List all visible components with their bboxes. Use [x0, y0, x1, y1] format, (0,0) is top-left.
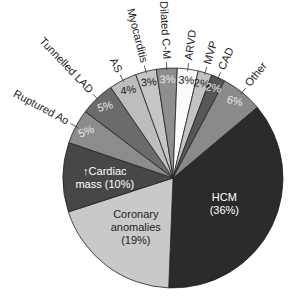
slice-label-cardiac-mass: ↑Cardiacmass (10%) — [75, 165, 134, 190]
slice-label-hcm: HCM(36%) — [210, 191, 239, 216]
pie-chart: HCM(36%)Coronaryanomalies(19%)↑Cardiacma… — [0, 0, 288, 301]
slice-percent-myocarditis: 3% — [140, 75, 157, 88]
category-label-as: AS — [108, 56, 125, 75]
category-label-arvd: ARVD — [182, 29, 198, 61]
category-label-other: Other — [242, 59, 269, 88]
slice-percent-arvd: 3% — [178, 73, 195, 86]
category-label-tunnelled-lad: Tunnelled LAD — [37, 35, 96, 96]
category-label-myocarditis: Myocarditis — [125, 7, 150, 64]
category-label-cad: CAD — [215, 45, 236, 71]
category-label-dilated-c-m: Dilated C-M — [158, 1, 173, 60]
leader-line — [93, 94, 99, 100]
slice-percent-dilated-c-m: 3% — [159, 73, 175, 85]
slice-percent-cad: 2% — [205, 80, 223, 94]
category-label-mvp: MVP — [201, 39, 219, 65]
category-label-ruptured-ao: Ruptured Ao — [12, 87, 72, 126]
